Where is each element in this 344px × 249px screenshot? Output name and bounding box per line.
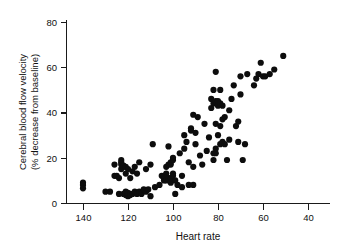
x-tick-label-140: 140: [76, 212, 92, 223]
data-point: [231, 82, 237, 88]
data-point: [206, 134, 212, 140]
data-point: [244, 71, 250, 77]
data-point: [197, 152, 203, 158]
x-tick-label-120: 120: [121, 212, 137, 223]
x-tick-label-100: 100: [166, 212, 182, 223]
data-point: [183, 139, 189, 145]
data-point: [219, 103, 225, 109]
data-point: [127, 175, 133, 181]
data-point: [80, 185, 86, 191]
data-point: [280, 53, 286, 59]
data-point: [267, 71, 273, 77]
data-point: [136, 159, 142, 165]
data-point: [235, 118, 241, 124]
x-axis-ticks: [84, 204, 309, 210]
data-point: [204, 148, 210, 154]
data-point: [179, 184, 185, 190]
y-tick-label-20: 20: [46, 153, 57, 164]
y-axis-title-line-1: Cerebral blood flow velocity: [17, 54, 28, 170]
data-point: [210, 157, 216, 163]
data-point: [237, 91, 243, 97]
data-point: [210, 87, 216, 93]
data-point: [215, 132, 221, 138]
data-point: [190, 182, 196, 188]
data-point: [181, 132, 187, 138]
y-axis-tick-labels: 020406080: [46, 17, 57, 209]
axes: [67, 20, 331, 204]
data-point: [147, 161, 153, 167]
data-point: [228, 96, 234, 102]
x-axis-tick-labels: 140120100806040: [76, 212, 314, 223]
data-point: [170, 155, 176, 161]
data-point: [181, 146, 187, 152]
data-point: [156, 182, 162, 188]
data-point: [186, 159, 192, 165]
data-point: [192, 130, 198, 136]
data-points: [80, 53, 286, 199]
y-tick-label-0: 0: [52, 198, 57, 209]
data-point: [116, 175, 122, 181]
data-point: [145, 186, 151, 192]
data-point: [222, 114, 228, 120]
y-tick-label-40: 40: [46, 107, 57, 118]
data-point: [226, 107, 232, 113]
data-point: [179, 173, 185, 179]
data-point: [107, 189, 113, 195]
data-point: [188, 125, 194, 131]
data-point: [118, 157, 124, 163]
data-point: [217, 123, 223, 129]
data-point: [170, 170, 176, 176]
data-point: [143, 166, 149, 172]
x-tick-label-60: 60: [258, 212, 269, 223]
data-point: [201, 121, 207, 127]
data-point: [195, 114, 201, 120]
x-axis-title: Heart rate: [176, 231, 221, 242]
data-point: [222, 141, 228, 147]
y-tick-label-80: 80: [46, 17, 57, 28]
data-point: [213, 69, 219, 75]
data-point: [251, 82, 257, 88]
data-point: [199, 161, 205, 167]
data-point: [217, 87, 223, 93]
y-axis-title-line-2: (% decrease from baseline): [29, 54, 40, 170]
x-tick-label-40: 40: [303, 212, 314, 223]
data-point: [150, 141, 156, 147]
data-point: [147, 193, 153, 199]
data-point: [132, 164, 138, 170]
data-point: [237, 73, 243, 79]
y-tick-label-60: 60: [46, 62, 57, 73]
data-point: [258, 60, 264, 66]
data-point: [134, 170, 140, 176]
data-point: [271, 66, 277, 72]
data-point: [242, 141, 248, 147]
data-point: [213, 146, 219, 152]
data-point: [177, 150, 183, 156]
data-point: [240, 157, 246, 163]
y-axis-ticks: [61, 23, 67, 204]
data-point: [111, 161, 117, 167]
data-point: [172, 191, 178, 197]
scatter-plot-figure: 020406080 140120100806040 Heart rate Cer…: [0, 0, 344, 249]
data-point: [190, 164, 196, 170]
data-point: [192, 141, 198, 147]
x-tick-label-80: 80: [213, 212, 224, 223]
data-point: [235, 139, 241, 145]
chart-canvas: 020406080 140120100806040 Heart rate Cer…: [0, 0, 344, 249]
data-point: [224, 157, 230, 163]
data-point: [226, 137, 232, 143]
data-point: [165, 143, 171, 149]
